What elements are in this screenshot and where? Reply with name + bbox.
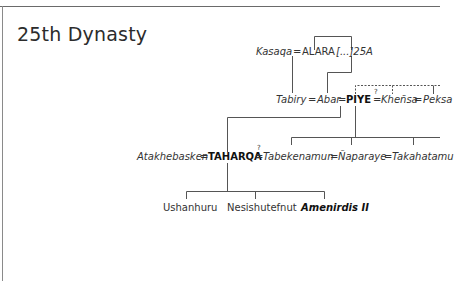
person-ushanhuru: Ushanhuru: [163, 202, 217, 213]
person-khensa: Kheñsa: [381, 94, 418, 105]
person-alara: ALARA: [302, 46, 335, 57]
person-tabiry: Tabiry: [276, 94, 306, 105]
marriage-sign: =: [414, 94, 422, 105]
person-peksa: Peksa: [423, 94, 452, 105]
person-abar: Abar: [317, 94, 340, 105]
person-kasaqa: Kasaqa: [256, 46, 292, 57]
person-takahatamu: Takahatamu: [392, 151, 454, 162]
person-unknown-25a: [...]25A: [336, 46, 373, 57]
marriage-sign: =: [308, 94, 316, 105]
person-naparaye: Ñaparaye: [338, 151, 386, 162]
person-taharqa: TAHARQA: [208, 151, 262, 162]
person-amenirdis-ii: Amenirdis II: [301, 202, 369, 213]
person-tabekenamun: Tabekenamun: [263, 151, 334, 162]
person-nesishutefnut: Nesishutefnut: [227, 202, 297, 213]
marriage-sign: =: [293, 46, 301, 57]
person-piye: PIYE: [346, 94, 371, 105]
person-atakhebasken: Atakhebasken: [137, 151, 208, 162]
